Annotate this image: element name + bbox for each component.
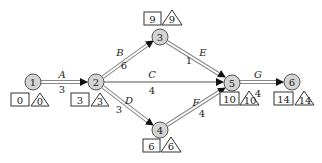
activity-B: B 6 xyxy=(103,41,153,77)
activity-label: E xyxy=(198,47,207,58)
early-time: 10 xyxy=(223,94,236,105)
early-time: 14 xyxy=(277,94,290,105)
early-time: 6 xyxy=(148,141,154,152)
late-time: 0 xyxy=(37,96,43,107)
activity-A: A 3 xyxy=(41,69,87,95)
activity-label: A xyxy=(57,69,65,80)
early-time: 0 xyxy=(17,95,23,106)
node-4: 4 6 6 xyxy=(143,122,181,152)
activity-E: E 1 xyxy=(167,42,225,77)
activity-label: F xyxy=(192,97,201,108)
activity-F: F 4 xyxy=(167,88,225,125)
activity-label: B xyxy=(115,47,123,58)
activity-duration: 1 xyxy=(186,55,192,66)
early-time: 3 xyxy=(77,95,83,106)
activity-D: D 3 xyxy=(103,87,153,125)
node-6: 6 14 14 xyxy=(274,74,314,106)
node-1: 1 0 0 xyxy=(11,74,49,107)
late-time: 14 xyxy=(299,95,312,106)
node-id: 2 xyxy=(93,77,99,88)
activity-label: D xyxy=(124,95,133,106)
node-3: 3 9 9 xyxy=(144,10,182,45)
activity-C: C 4 xyxy=(104,69,223,96)
node-id: 6 xyxy=(289,77,295,88)
network-diagram: A 3 B 6 C 4 D 3 E 1 F 4 xyxy=(0,0,322,163)
activity-duration: 4 xyxy=(149,85,155,96)
node-id: 3 xyxy=(157,32,163,43)
late-time: 10 xyxy=(244,95,257,106)
activity-label: G xyxy=(254,69,262,80)
activity-duration: 4 xyxy=(199,108,205,119)
late-time: 6 xyxy=(168,141,174,152)
node-2: 2 3 3 xyxy=(71,74,109,107)
activity-duration: 6 xyxy=(121,60,127,71)
activity-duration: 3 xyxy=(116,104,122,115)
node-id: 1 xyxy=(30,77,36,88)
activity-duration: 3 xyxy=(59,84,65,95)
node-id: 5 xyxy=(229,78,235,89)
early-time: 9 xyxy=(149,14,155,25)
activity-label: C xyxy=(148,69,156,80)
late-time: 3 xyxy=(97,96,103,107)
node-id: 4 xyxy=(157,125,163,136)
late-time: 9 xyxy=(169,14,175,25)
